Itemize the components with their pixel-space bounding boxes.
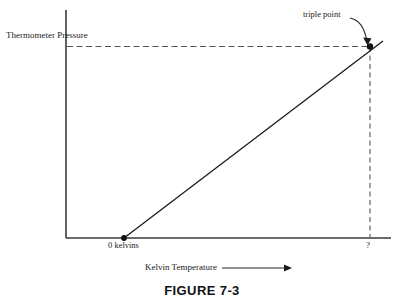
chart-canvas [0, 0, 404, 306]
x-tick-label-unknown: ? [366, 240, 370, 250]
triple-point-annotation-label: triple point [303, 10, 341, 20]
y-axis-label: Thermometer Pressure [6, 30, 62, 40]
x-axis-label: Kelvin Temperature [145, 262, 217, 272]
annotation-leader-line [350, 18, 367, 39]
pressure-temperature-line [124, 41, 383, 238]
figure-container: Thermometer Pressure 0 kelvins ? Kelvin … [0, 0, 404, 306]
xlabel-arrowhead-icon [284, 265, 292, 272]
figure-caption: FIGURE 7-3 [0, 283, 404, 298]
x-tick-label-origin: 0 kelvins [108, 241, 139, 251]
